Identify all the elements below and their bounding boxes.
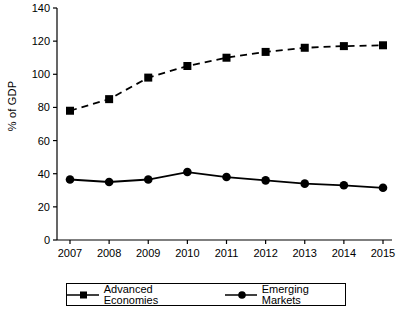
data-point-square	[340, 42, 348, 50]
x-tick-label: 2013	[285, 248, 325, 259]
data-point-square	[223, 54, 231, 62]
y-tick-label: 0	[24, 235, 50, 246]
data-point-circle	[261, 176, 270, 185]
y-tick-label: 120	[24, 36, 50, 47]
plot-area	[0, 0, 404, 314]
x-tick-label: 2010	[167, 248, 207, 259]
legend-label-advanced-economies: Advanced Economies	[104, 284, 203, 306]
x-tick-label: 2008	[89, 248, 129, 259]
data-point-circle	[340, 181, 349, 190]
data-point-circle	[222, 173, 231, 182]
data-point-square	[183, 62, 191, 70]
chart-legend: Advanced Economies Emerging Markets	[66, 283, 346, 306]
x-tick-label: 2015	[363, 248, 403, 259]
y-tick-label: 100	[24, 69, 50, 80]
data-point-square	[301, 44, 309, 52]
x-tick-label: 2009	[128, 248, 168, 259]
data-point-square	[66, 107, 74, 115]
y-tick-label: 140	[24, 3, 50, 14]
chart-figure: % of GDP 020406080100120140 200720082009…	[0, 0, 404, 314]
x-tick-label: 2012	[246, 248, 286, 259]
y-tick-label: 60	[24, 135, 50, 146]
legend-swatch-circle-icon	[225, 289, 257, 301]
x-tick-label: 2011	[207, 248, 247, 259]
y-tick-label: 20	[24, 201, 50, 212]
data-point-circle	[105, 178, 114, 187]
data-point-circle	[379, 184, 388, 193]
data-point-circle	[183, 168, 192, 177]
data-point-circle	[66, 175, 75, 184]
data-point-square	[262, 48, 270, 56]
y-tick-label: 80	[24, 102, 50, 113]
y-axis-tick-labels: 020406080100120140	[22, 0, 50, 250]
legend-item-advanced-economies: Advanced Economies	[67, 284, 203, 306]
data-point-circle	[144, 175, 153, 184]
data-point-square	[379, 41, 387, 49]
x-tick-label: 2007	[50, 248, 90, 259]
legend-item-emerging-markets: Emerging Markets	[225, 284, 345, 306]
data-point-square	[105, 95, 113, 103]
legend-label-emerging-markets: Emerging Markets	[262, 284, 345, 306]
legend-swatch-square-icon	[67, 289, 99, 301]
y-axis-title: % of GDP	[6, 66, 18, 146]
data-point-circle	[300, 179, 309, 188]
x-tick-label: 2014	[324, 248, 364, 259]
data-point-square	[144, 74, 152, 82]
y-tick-label: 40	[24, 168, 50, 179]
